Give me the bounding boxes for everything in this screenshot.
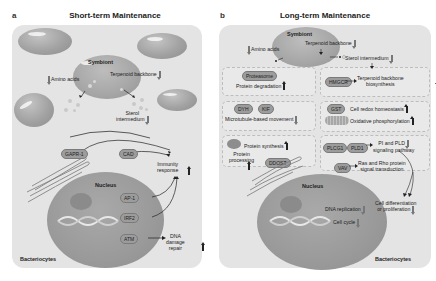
arrows-b bbox=[0, 0, 436, 281]
